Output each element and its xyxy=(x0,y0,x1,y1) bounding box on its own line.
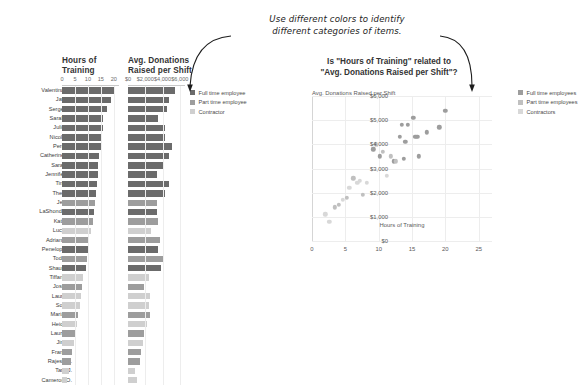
bar[interactable] xyxy=(62,349,72,355)
bar[interactable] xyxy=(62,302,80,308)
bar[interactable] xyxy=(128,368,135,374)
table-row[interactable]: LaShonda R. xyxy=(0,207,190,216)
bar[interactable] xyxy=(62,200,95,206)
table-row[interactable]: Jennifer B. xyxy=(0,170,190,179)
table-row[interactable]: Adriana E. xyxy=(0,236,190,245)
bar[interactable] xyxy=(62,284,82,290)
table-row[interactable]: Son L. xyxy=(0,301,190,310)
bar[interactable] xyxy=(128,246,158,252)
bar-track xyxy=(128,265,185,271)
legend-item[interactable]: Contractors xyxy=(518,107,578,117)
table-row[interactable]: Jeff L. xyxy=(0,198,190,207)
table-row[interactable]: Rajesh S. xyxy=(0,357,190,366)
bar[interactable] xyxy=(128,209,157,215)
bar[interactable] xyxy=(128,134,165,140)
bar[interactable] xyxy=(128,115,158,121)
table-row[interactable]: Tiffany P. xyxy=(0,273,190,282)
bar[interactable] xyxy=(128,125,165,131)
table-row[interactable]: Sarah F. xyxy=(0,161,190,170)
legend-item[interactable]: Part time employees xyxy=(518,98,578,108)
table-row[interactable]: Cameron O. xyxy=(0,376,190,385)
legend-item[interactable]: Part time employee xyxy=(190,98,247,108)
legend-item[interactable]: Full time employee xyxy=(190,88,247,98)
bar[interactable] xyxy=(62,330,75,336)
bar[interactable] xyxy=(128,218,158,224)
bar[interactable] xyxy=(62,171,98,177)
bar[interactable] xyxy=(128,200,157,206)
table-row[interactable]: Maria G. xyxy=(0,310,190,319)
table-row[interactable]: Heidi O. xyxy=(0,320,190,329)
bar[interactable] xyxy=(128,293,150,299)
bar[interactable] xyxy=(128,87,175,93)
table-row[interactable]: Jose R. xyxy=(0,282,190,291)
bar-track xyxy=(128,181,185,187)
table-row[interactable]: Nicole E. xyxy=(0,133,190,142)
y-axis-tick: $4,000 xyxy=(370,141,388,147)
column-title-hours: Hours of Training xyxy=(62,56,120,76)
bar[interactable] xyxy=(62,293,81,299)
bar-track xyxy=(62,312,119,318)
table-row[interactable]: Sarah Q. xyxy=(0,114,190,123)
bar[interactable] xyxy=(62,265,86,271)
table-row[interactable]: Frank L. xyxy=(0,348,190,357)
bar[interactable] xyxy=(128,228,151,234)
bar[interactable] xyxy=(62,340,74,346)
table-row[interactable]: Laura K. xyxy=(0,329,190,338)
table-row[interactable]: Catherine M. xyxy=(0,151,190,160)
bar-track xyxy=(128,368,185,374)
table-row[interactable]: Tara J. xyxy=(0,366,190,375)
bar[interactable] xyxy=(62,134,102,140)
bar[interactable] xyxy=(62,97,111,103)
table-row[interactable]: Laura J. xyxy=(0,292,190,301)
bar[interactable] xyxy=(62,115,103,121)
bar[interactable] xyxy=(62,153,99,159)
table-row[interactable]: Todd H. xyxy=(0,254,190,263)
bar[interactable] xyxy=(62,125,103,131)
table-row[interactable]: Shaun R. xyxy=(0,264,190,273)
bar[interactable] xyxy=(62,228,91,234)
table-row[interactable]: Theo B. xyxy=(0,189,190,198)
bar[interactable] xyxy=(62,190,96,196)
bar[interactable] xyxy=(128,377,137,383)
bar[interactable] xyxy=(62,162,98,168)
table-row[interactable]: Julie R. xyxy=(0,123,190,132)
table-row[interactable]: Penelope A. xyxy=(0,245,190,254)
table-row[interactable]: Lucy. L. xyxy=(0,226,190,235)
bar[interactable] xyxy=(128,349,141,355)
axis-tick: 10 xyxy=(85,76,91,82)
bar[interactable] xyxy=(62,358,71,364)
bar[interactable] xyxy=(62,209,94,215)
bar-track xyxy=(62,321,119,327)
column-title-donations-line2: Raised per Shift xyxy=(128,66,198,76)
bar[interactable] xyxy=(128,330,144,336)
table-row[interactable]: Valentina M. xyxy=(0,86,190,95)
bar[interactable] xyxy=(128,171,157,177)
bar-track xyxy=(62,256,119,262)
bar[interactable] xyxy=(62,377,67,383)
table-row[interactable]: Sergei R. xyxy=(0,105,190,114)
table-row[interactable]: Kate B. xyxy=(0,217,190,226)
bar[interactable] xyxy=(62,274,83,280)
legend-label: Full time employees xyxy=(527,90,577,96)
bar[interactable] xyxy=(128,143,172,149)
table-row[interactable]: Percy I. xyxy=(0,142,190,151)
bar[interactable] xyxy=(62,181,97,187)
bar[interactable] xyxy=(128,321,147,327)
table-row[interactable]: Tina J. xyxy=(0,179,190,188)
bar[interactable] xyxy=(128,312,150,318)
table-row[interactable]: Jim B. xyxy=(0,338,190,347)
bar[interactable] xyxy=(128,340,143,346)
bar[interactable] xyxy=(128,237,160,243)
bar[interactable] xyxy=(128,358,140,364)
legend-item[interactable]: Full time employees xyxy=(518,88,578,98)
legend-swatch-icon xyxy=(190,109,195,114)
bar[interactable] xyxy=(62,143,101,149)
bar[interactable] xyxy=(62,368,69,374)
bar[interactable] xyxy=(128,284,144,290)
bar[interactable] xyxy=(128,190,165,196)
table-row[interactable]: Javi L. xyxy=(0,95,190,104)
bar[interactable] xyxy=(128,106,167,112)
bar-track xyxy=(128,302,185,308)
legend-item[interactable]: Contractor xyxy=(190,107,247,117)
